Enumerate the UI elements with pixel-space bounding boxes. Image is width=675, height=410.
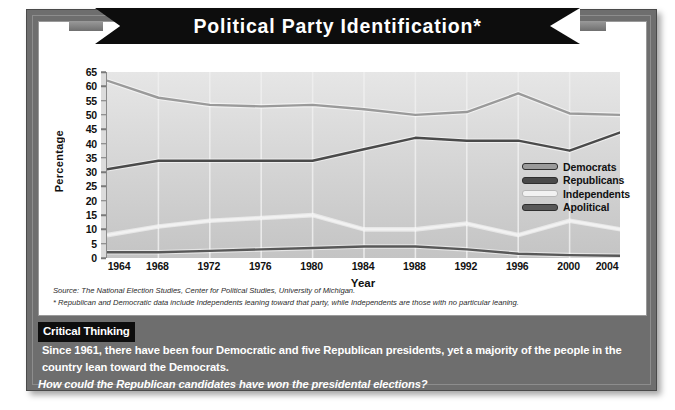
title-ribbon: Political Party Identification* [95, 8, 580, 44]
source-notes: Source: The National Election Studies, C… [53, 285, 635, 309]
y-tick-label: 20 [86, 195, 97, 207]
legend-label: Apolitical [563, 201, 609, 213]
x-axis-tick-labels: 1964196819721976198019841988199219962000… [106, 260, 620, 276]
y-tick-label: 15 [86, 209, 97, 221]
y-tick-label: 65 [86, 66, 97, 78]
legend-item: Republicans [522, 174, 642, 188]
footnote-line: * Republican and Democratic data include… [53, 297, 635, 309]
legend-label: Democrats [563, 161, 616, 173]
x-tick-label: 1972 [198, 260, 221, 272]
y-axis-tick-labels: 05101520253035404550556065 [73, 72, 99, 258]
legend-swatch [522, 204, 558, 211]
y-tick-label: 40 [86, 138, 97, 150]
x-tick-label: 2000 [557, 260, 580, 272]
x-tick-label: 1984 [352, 260, 375, 272]
x-tick-label: 1964 [108, 260, 131, 272]
y-tick-label: 45 [86, 123, 97, 135]
x-tick-label: 1988 [403, 260, 426, 272]
chart-card: Percentage 05101520253035404550556065 19… [38, 21, 647, 316]
critical-thinking-statement: Since 1961, there have been four Democra… [42, 342, 647, 376]
y-tick-label: 30 [86, 166, 97, 178]
legend-item: Independents [522, 187, 642, 201]
y-tick-label: 0 [91, 252, 97, 264]
source-line: Source: The National Election Studies, C… [53, 285, 635, 297]
critical-thinking-question: How could the Republican candidates have… [38, 378, 428, 390]
x-tick-label: 1968 [146, 260, 169, 272]
y-axis-title: Percentage [53, 130, 69, 192]
plot-region: Percentage 05101520253035404550556065 19… [57, 72, 632, 307]
legend-swatch [522, 190, 558, 197]
page-title: Political Party Identification* [95, 8, 580, 44]
y-tick-label: 10 [86, 223, 97, 235]
y-tick-label: 35 [86, 152, 97, 164]
y-tick-label: 60 [86, 80, 97, 92]
legend-label: Independents [563, 188, 630, 200]
legend-label: Republicans [563, 174, 624, 186]
x-tick-label: 1992 [455, 260, 478, 272]
y-tick-label: 25 [86, 180, 97, 192]
legend-swatch [522, 177, 558, 184]
x-tick-label: 1980 [300, 260, 323, 272]
y-tick-label: 5 [91, 238, 97, 250]
figure-frame: Percentage 05101520253035404550556065 19… [26, 9, 657, 391]
critical-thinking-badge: Critical Thinking [38, 322, 135, 342]
critical-thinking-text: Critical ThinkingSince 1961, there have … [38, 322, 647, 393]
critical-thinking-block: Critical ThinkingSince 1961, there have … [38, 322, 647, 378]
y-tick-label: 50 [86, 109, 97, 121]
x-tick-label: 1996 [506, 260, 529, 272]
y-tick-label: 55 [86, 95, 97, 107]
x-tick-label: 1976 [249, 260, 272, 272]
legend-swatch [522, 163, 558, 170]
legend-item: Democrats [522, 160, 642, 174]
legend-item: Apolitical [522, 201, 642, 215]
chart-legend: DemocratsRepublicansIndependentsApolitic… [522, 160, 642, 214]
x-tick-label: 2004 [596, 260, 619, 272]
